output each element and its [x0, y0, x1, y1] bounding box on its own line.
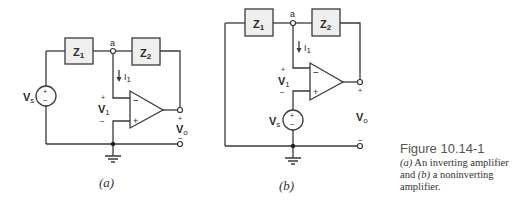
caption-a: (a): [99, 175, 114, 190]
circuit-a: Z1 Z2 a I1 + − Vs − + + V1 − + Vo − (a): [23, 38, 188, 190]
vo-plus: +: [178, 115, 182, 122]
v1-label: V1: [278, 75, 290, 89]
v1-plus: +: [101, 94, 105, 101]
opamp-inverting-sign: −: [133, 95, 139, 106]
circuit-b: Z1 Z2 a I1 − + + V1 − + − Vs + Vo − (b): [225, 9, 368, 193]
arrowhead-icon: [297, 48, 302, 53]
opamp-noninverting-sign: +: [313, 87, 318, 97]
source-plus: +: [290, 112, 294, 119]
source-plus: +: [43, 88, 47, 95]
node-a: [111, 49, 116, 54]
wire-z2-to-output: [340, 23, 360, 80]
arrowhead-icon: [117, 77, 122, 82]
v1-label: V1: [98, 103, 110, 117]
current-i1-label: I1: [124, 72, 132, 84]
vo-minus: −: [178, 134, 183, 143]
wire-noninverting-to-source: [293, 91, 310, 146]
source-minus: −: [290, 120, 295, 129]
v1-minus: −: [100, 117, 105, 126]
output-terminal-plus: [358, 80, 363, 85]
v1-plus: +: [281, 66, 285, 73]
node-a: [291, 21, 296, 26]
v1-minus: −: [280, 88, 285, 97]
ground-icon: [105, 144, 121, 162]
output-terminal-plus: [178, 108, 183, 113]
vo-plus: +: [358, 87, 362, 94]
current-i1-label: I1: [304, 43, 312, 55]
node-a-label: a: [290, 9, 295, 19]
source-minus: −: [43, 96, 48, 105]
vs-label: Vs: [23, 91, 34, 105]
opamp-noninverting-sign: +: [133, 116, 138, 126]
caption-b: (b): [279, 178, 294, 193]
figure-description: (a) An inverting amplifier and (b) a non…: [400, 157, 524, 193]
desc-a-label: (a): [400, 157, 412, 168]
vo-label: Vo: [356, 111, 368, 125]
junction-dot: [111, 142, 115, 146]
desc-b-label: (b): [418, 169, 430, 180]
vs-label: Vs: [269, 115, 280, 129]
wire-noninverting-to-ground: [113, 121, 130, 144]
opamp-inverting-sign: −: [313, 67, 319, 78]
node-a-label: a: [110, 38, 115, 48]
junction-dot: [291, 144, 295, 148]
ground-icon: [285, 146, 301, 164]
figure-title: Figure 10.14-1: [400, 141, 485, 156]
wire-z2-to-output: [160, 51, 180, 108]
vo-minus: −: [358, 136, 363, 145]
